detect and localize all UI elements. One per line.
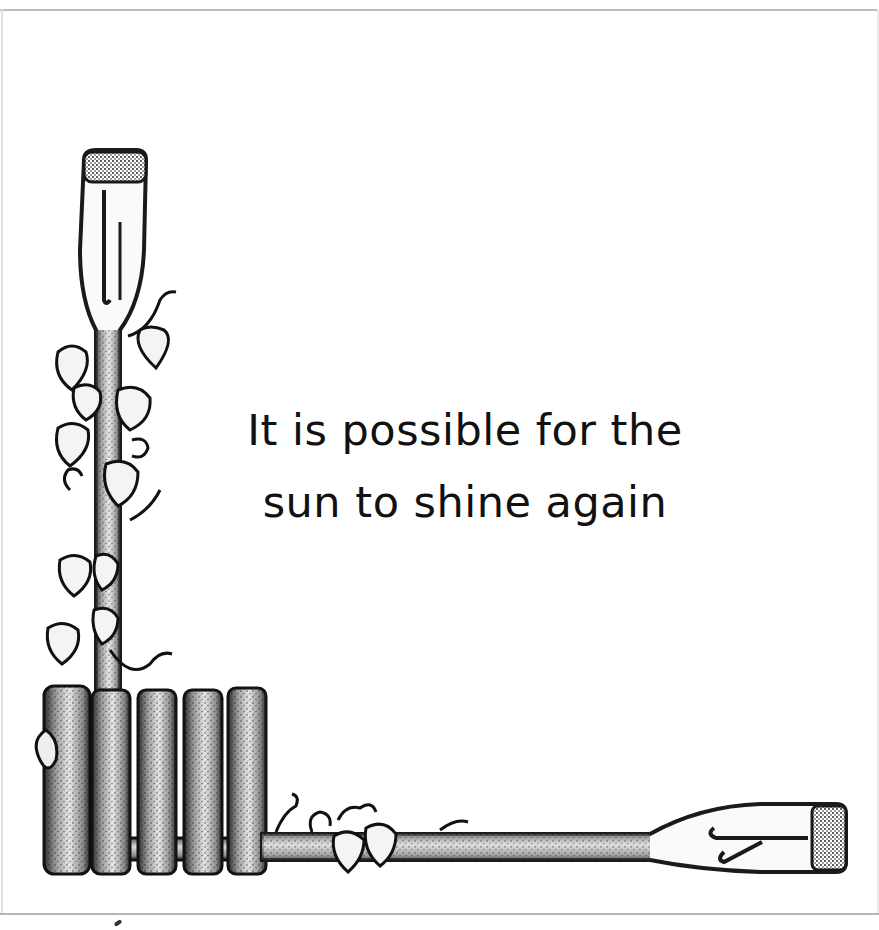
quote-line-1: It is possible for the xyxy=(200,394,730,466)
picket-fence xyxy=(36,686,272,874)
quote-line-2: sun to shine again xyxy=(200,466,730,538)
oar-grip-top xyxy=(84,152,146,182)
card-quote: It is possible for the sun to shine agai… xyxy=(200,394,730,538)
oar-grip-end xyxy=(812,806,846,870)
